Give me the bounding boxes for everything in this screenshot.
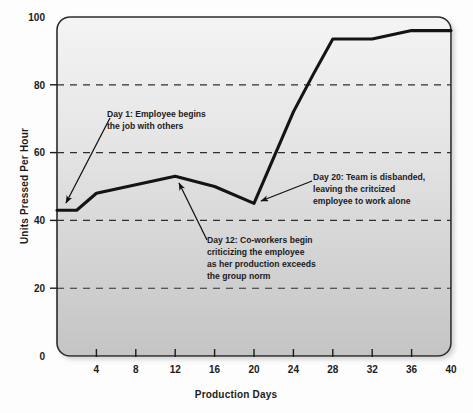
x-tick-label: 28: [327, 364, 339, 375]
x-tick-label: 36: [406, 364, 418, 375]
x-tick-label: 16: [209, 364, 221, 375]
y-tick-label: 100: [28, 12, 45, 23]
x-tick-label: 4: [94, 364, 100, 375]
x-tick-label: 8: [133, 364, 139, 375]
annotation-line: the job with others: [107, 121, 184, 131]
x-axis-title: Production Days: [195, 389, 278, 400]
annotation-line: as her production exceeds: [207, 259, 316, 269]
annotation-line: Day 12: Co-workers begin: [207, 235, 313, 245]
annotation-line: employee to work alone: [313, 196, 411, 206]
x-tick-label: 12: [170, 364, 182, 375]
y-tick-label: 60: [34, 147, 46, 158]
y-axis-ticks: [50, 85, 57, 288]
y-axis-title: Units Pressed Per Hour: [19, 128, 30, 244]
y-tick-labels: 100 80 60 40 20 0: [28, 12, 45, 362]
x-tick-labels: 4 8 12 16 20 24 28 32 36 40: [94, 364, 457, 375]
x-tick-label: 24: [288, 364, 300, 375]
annotation-line: leaving the critcized: [313, 184, 395, 194]
annotation-line: the group norm: [207, 271, 271, 281]
y-tick-label: 0: [39, 351, 45, 362]
annotation-line: Day 1: Employee begins: [107, 109, 206, 119]
y-tick-label: 80: [34, 80, 46, 91]
x-tick-label: 20: [248, 364, 260, 375]
y-tick-label: 40: [34, 215, 46, 226]
annotation-line: Day 20: Team is disbanded,: [313, 172, 425, 182]
annotation-line: criticizing the employee: [207, 247, 305, 257]
x-tick-label: 32: [367, 364, 379, 375]
x-tick-label: 40: [445, 364, 457, 375]
y-tick-label: 20: [34, 283, 46, 294]
line-chart: 100 80 60 40 20 0 4 8 12 16 20 24 28 32 …: [0, 0, 473, 413]
chart-canvas: 100 80 60 40 20 0 4 8 12 16 20 24 28 32 …: [0, 0, 473, 413]
